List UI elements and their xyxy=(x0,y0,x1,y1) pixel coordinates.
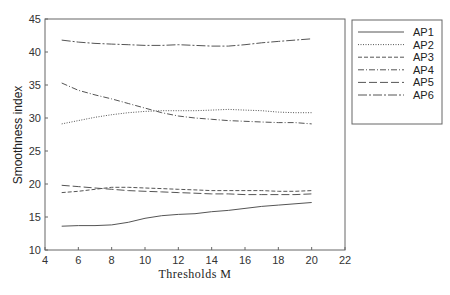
y-tick-label: 40 xyxy=(29,46,41,58)
x-tick-label: 10 xyxy=(139,254,151,266)
y-tick-label: 35 xyxy=(29,79,41,91)
y-tick-label: 10 xyxy=(29,244,41,256)
plot-area xyxy=(45,19,345,250)
series-layer xyxy=(62,39,312,226)
legend: AP1AP2AP3AP4AP5AP6 xyxy=(352,20,442,124)
legend-label: AP3 xyxy=(413,51,434,63)
x-tick-label: 18 xyxy=(272,254,284,266)
series-ap5 xyxy=(62,185,312,194)
x-tick-label: 16 xyxy=(239,254,251,266)
series-ap1 xyxy=(62,203,312,227)
x-tick-label: 20 xyxy=(306,254,318,266)
x-axis-title: Thresholds M xyxy=(159,267,232,281)
x-tick-label: 8 xyxy=(109,254,115,266)
line-chart: 46810121416182022 1015202530354045 Thres… xyxy=(0,0,450,295)
legend-label: AP6 xyxy=(413,89,434,101)
y-tick-label: 45 xyxy=(29,13,41,25)
x-tick-label: 22 xyxy=(339,254,351,266)
series-ap4 xyxy=(62,83,312,124)
y-tick-label: 25 xyxy=(29,145,41,157)
y-tick-label: 20 xyxy=(29,178,41,190)
y-axis-title: Smoothness index xyxy=(11,86,25,185)
x-tick-label: 12 xyxy=(172,254,184,266)
legend-label: AP2 xyxy=(413,39,434,51)
legend-label: AP5 xyxy=(413,76,434,88)
x-tick-label: 4 xyxy=(42,254,48,266)
y-tick-label: 30 xyxy=(29,112,41,124)
legend-label: AP1 xyxy=(413,26,434,38)
x-tick-label: 14 xyxy=(206,254,218,266)
legend-label: AP4 xyxy=(413,64,434,76)
y-tick-label: 15 xyxy=(29,211,41,223)
x-tick-label: 6 xyxy=(75,254,81,266)
series-ap6 xyxy=(62,39,312,46)
